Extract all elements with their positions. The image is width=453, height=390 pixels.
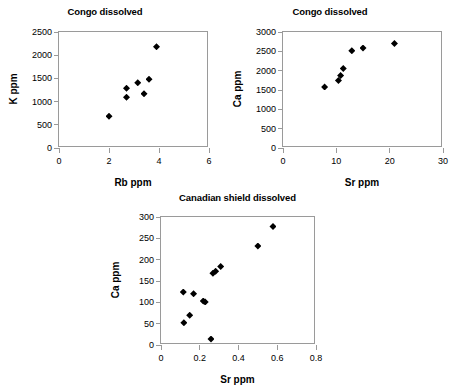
y-tick-canadian-shield-ca-sr-6 bbox=[156, 217, 161, 218]
data-point bbox=[269, 223, 276, 230]
x-tick-canadian-shield-ca-sr-0 bbox=[161, 345, 162, 350]
x-tick-label-canadian-shield-ca-sr-4: 0.8 bbox=[310, 353, 323, 363]
x-tick-canadian-shield-ca-sr-3 bbox=[277, 345, 278, 350]
y-axis-label-canadian-shield-ca-sr: Ca ppm bbox=[110, 262, 121, 299]
data-point bbox=[207, 336, 214, 343]
data-point bbox=[190, 290, 197, 297]
plot-area-canadian-shield-ca-sr: 05010015020025030000.20.40.60.8 bbox=[160, 216, 315, 344]
data-point bbox=[180, 289, 187, 296]
y-tick-label-canadian-shield-ca-sr-2: 100 bbox=[113, 297, 154, 307]
x-axis-label-canadian-shield-ca-sr: Sr ppm bbox=[220, 374, 254, 385]
x-tick-label-canadian-shield-ca-sr-0: 0 bbox=[158, 353, 163, 363]
data-point bbox=[186, 312, 193, 319]
x-tick-label-canadian-shield-ca-sr-1: 0.2 bbox=[193, 353, 206, 363]
y-tick-label-canadian-shield-ca-sr-6: 300 bbox=[113, 212, 154, 222]
data-point bbox=[254, 243, 261, 250]
scatter-plot-figure: Congo dissolved050010001500200025000246R… bbox=[0, 0, 453, 390]
chart-title-canadian-shield-ca-sr: Canadian shield dissolved bbox=[120, 192, 355, 203]
y-tick-label-canadian-shield-ca-sr-1: 50 bbox=[113, 319, 154, 329]
x-tick-canadian-shield-ca-sr-2 bbox=[238, 345, 239, 350]
x-tick-label-canadian-shield-ca-sr-3: 0.6 bbox=[271, 353, 284, 363]
y-tick-canadian-shield-ca-sr-4 bbox=[156, 259, 161, 260]
y-tick-canadian-shield-ca-sr-1 bbox=[156, 323, 161, 324]
y-tick-canadian-shield-ca-sr-2 bbox=[156, 302, 161, 303]
data-point bbox=[180, 319, 187, 326]
chart-panel-canadian-shield-ca-sr: Canadian shield dissolved050100150200250… bbox=[0, 0, 453, 390]
y-tick-label-canadian-shield-ca-sr-0: 0 bbox=[113, 340, 154, 350]
data-point bbox=[217, 263, 224, 270]
x-tick-canadian-shield-ca-sr-4 bbox=[316, 345, 317, 350]
y-tick-label-canadian-shield-ca-sr-5: 250 bbox=[113, 233, 154, 243]
x-tick-label-canadian-shield-ca-sr-2: 0.4 bbox=[232, 353, 245, 363]
x-tick-canadian-shield-ca-sr-1 bbox=[199, 345, 200, 350]
y-tick-canadian-shield-ca-sr-5 bbox=[156, 238, 161, 239]
y-tick-canadian-shield-ca-sr-3 bbox=[156, 281, 161, 282]
